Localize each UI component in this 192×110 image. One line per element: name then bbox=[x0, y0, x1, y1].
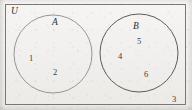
set-b-circle bbox=[100, 14, 178, 92]
set-b-element-4: 4 bbox=[118, 52, 122, 61]
set-a-element-1: 1 bbox=[29, 54, 33, 63]
set-b-element-6: 6 bbox=[144, 70, 148, 79]
venn-diagram-figure: U A B 1 2 4 5 6 3 bbox=[0, 0, 192, 110]
set-b-element-5: 5 bbox=[137, 37, 141, 46]
set-a-element-2: 2 bbox=[53, 68, 57, 77]
outside-element-3: 3 bbox=[172, 95, 176, 104]
set-b-label: B bbox=[133, 22, 139, 32]
universal-set-label: U bbox=[11, 7, 18, 17]
set-a-label: A bbox=[52, 18, 58, 28]
